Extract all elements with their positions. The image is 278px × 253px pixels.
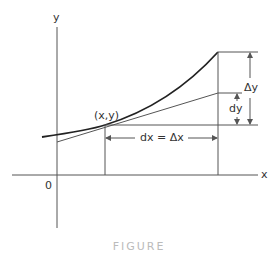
delta-y-label: Δy xyxy=(244,82,258,93)
dy-label: dy xyxy=(229,103,243,114)
x-axis-label: x xyxy=(261,169,268,180)
point-label: (x,y) xyxy=(94,110,119,121)
dx-label: dx = Δx xyxy=(140,132,184,143)
y-axis-label: y xyxy=(53,12,60,23)
origin-label: 0 xyxy=(45,180,52,191)
figure-caption: FIGURE xyxy=(0,240,278,253)
function-curve xyxy=(42,52,218,137)
tangent-line xyxy=(57,93,218,142)
